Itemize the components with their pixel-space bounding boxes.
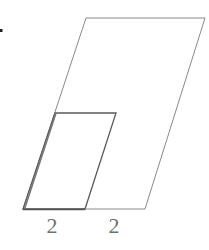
bottom-label-left: 2 xyxy=(47,213,58,238)
inner-left-edge-emphasis xyxy=(25,113,57,209)
bottom-label-right: 2 xyxy=(109,213,120,238)
inner-parallelogram xyxy=(23,113,116,209)
diagram-canvas: 2 2 xyxy=(0,0,209,250)
marker-dot xyxy=(0,29,3,32)
